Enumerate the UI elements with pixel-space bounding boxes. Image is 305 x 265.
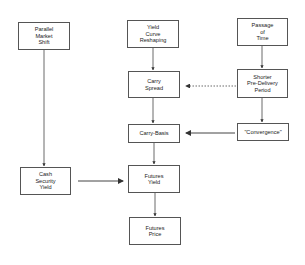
- node-convergence: "Convergence": [237, 123, 289, 141]
- node-yield-curve-reshaping: Yield Curve Reshaping: [127, 20, 179, 48]
- node-cash-security-yield: Cash Security Yield: [20, 167, 71, 195]
- node-shorter-pre-delivery-period: Shorter Pre-Delivery Period: [237, 69, 288, 98]
- flow-diagram: Parallel Market Shift Yield Curve Reshap…: [0, 0, 305, 265]
- node-carry-spread: Carry Spread: [128, 71, 180, 98]
- node-parallel-market-shift: Parallel Market Shift: [18, 22, 70, 50]
- node-passage-of-time: Passage of Time: [237, 18, 288, 46]
- node-futures-yield: Futures Yield: [128, 165, 180, 193]
- node-futures-price: Futures Price: [129, 217, 181, 245]
- node-carry-basis: Carry-Basis: [128, 124, 180, 143]
